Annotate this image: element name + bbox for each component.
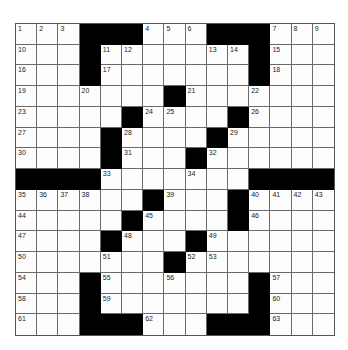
grid-cell[interactable] — [186, 45, 207, 66]
grid-cell[interactable]: 51 — [101, 252, 122, 273]
grid-cell[interactable] — [313, 231, 334, 252]
grid-cell[interactable] — [207, 211, 228, 232]
grid-cell[interactable] — [164, 148, 185, 169]
grid-cell[interactable] — [186, 128, 207, 149]
grid-cell[interactable] — [143, 128, 164, 149]
grid-cell[interactable] — [186, 294, 207, 315]
grid-cell[interactable] — [143, 294, 164, 315]
grid-cell[interactable] — [80, 231, 101, 252]
grid-cell[interactable] — [249, 252, 270, 273]
grid-cell[interactable]: 62 — [143, 314, 164, 335]
grid-cell[interactable] — [164, 211, 185, 232]
grid-cell[interactable] — [186, 190, 207, 211]
grid-cell[interactable]: 59 — [101, 294, 122, 315]
grid-cell[interactable] — [292, 252, 313, 273]
grid-cell[interactable]: 57 — [270, 273, 291, 294]
grid-cell[interactable] — [122, 294, 143, 315]
grid-cell[interactable] — [37, 65, 58, 86]
grid-cell[interactable] — [207, 294, 228, 315]
grid-cell[interactable] — [58, 65, 79, 86]
grid-cell[interactable]: 40 — [249, 190, 270, 211]
grid-cell[interactable] — [292, 273, 313, 294]
grid-cell[interactable] — [270, 128, 291, 149]
grid-cell[interactable] — [37, 294, 58, 315]
grid-cell[interactable] — [228, 169, 249, 190]
grid-cell[interactable] — [292, 231, 313, 252]
grid-cell[interactable]: 34 — [186, 169, 207, 190]
grid-cell[interactable] — [164, 169, 185, 190]
grid-cell[interactable]: 12 — [122, 45, 143, 66]
grid-cell[interactable] — [58, 273, 79, 294]
grid-cell[interactable] — [58, 211, 79, 232]
grid-cell[interactable] — [292, 148, 313, 169]
grid-cell[interactable]: 11 — [101, 45, 122, 66]
grid-cell[interactable]: 43 — [313, 190, 334, 211]
grid-cell[interactable] — [122, 273, 143, 294]
grid-cell[interactable] — [58, 252, 79, 273]
grid-cell[interactable] — [37, 107, 58, 128]
grid-cell[interactable] — [37, 231, 58, 252]
grid-cell[interactable] — [122, 86, 143, 107]
grid-cell[interactable] — [292, 107, 313, 128]
grid-cell[interactable]: 45 — [143, 211, 164, 232]
grid-cell[interactable] — [122, 169, 143, 190]
grid-cell[interactable]: 6 — [186, 24, 207, 45]
grid-cell[interactable] — [101, 190, 122, 211]
grid-cell[interactable] — [164, 231, 185, 252]
grid-cell[interactable]: 54 — [16, 273, 37, 294]
grid-cell[interactable]: 28 — [122, 128, 143, 149]
grid-cell[interactable]: 38 — [80, 190, 101, 211]
grid-cell[interactable] — [37, 252, 58, 273]
grid-cell[interactable] — [186, 107, 207, 128]
grid-cell[interactable]: 24 — [143, 107, 164, 128]
grid-cell[interactable] — [207, 86, 228, 107]
grid-cell[interactable] — [228, 148, 249, 169]
grid-cell[interactable]: 50 — [16, 252, 37, 273]
grid-cell[interactable] — [37, 273, 58, 294]
grid-cell[interactable]: 31 — [122, 148, 143, 169]
grid-cell[interactable]: 37 — [58, 190, 79, 211]
grid-cell[interactable] — [313, 273, 334, 294]
grid-cell[interactable] — [249, 128, 270, 149]
grid-cell[interactable]: 20 — [80, 86, 101, 107]
grid-cell[interactable]: 8 — [292, 24, 313, 45]
grid-cell[interactable] — [313, 107, 334, 128]
grid-cell[interactable]: 4 — [143, 24, 164, 45]
grid-cell[interactable]: 26 — [249, 107, 270, 128]
grid-cell[interactable]: 17 — [101, 65, 122, 86]
grid-cell[interactable] — [80, 107, 101, 128]
grid-cell[interactable]: 49 — [207, 231, 228, 252]
grid-cell[interactable] — [80, 211, 101, 232]
grid-cell[interactable]: 2 — [37, 24, 58, 45]
grid-cell[interactable]: 33 — [101, 169, 122, 190]
grid-cell[interactable] — [249, 231, 270, 252]
grid-cell[interactable]: 56 — [164, 273, 185, 294]
grid-cell[interactable] — [164, 294, 185, 315]
grid-cell[interactable] — [228, 252, 249, 273]
grid-cell[interactable] — [313, 45, 334, 66]
grid-cell[interactable] — [313, 252, 334, 273]
grid-cell[interactable] — [249, 148, 270, 169]
grid-cell[interactable] — [313, 148, 334, 169]
grid-cell[interactable] — [164, 45, 185, 66]
grid-cell[interactable]: 60 — [270, 294, 291, 315]
grid-cell[interactable] — [101, 86, 122, 107]
grid-cell[interactable]: 48 — [122, 231, 143, 252]
grid-cell[interactable]: 3 — [58, 24, 79, 45]
grid-cell[interactable] — [207, 169, 228, 190]
grid-cell[interactable] — [313, 128, 334, 149]
grid-cell[interactable]: 30 — [16, 148, 37, 169]
grid-cell[interactable] — [228, 86, 249, 107]
grid-cell[interactable] — [164, 65, 185, 86]
grid-cell[interactable]: 16 — [16, 65, 37, 86]
grid-cell[interactable]: 32 — [207, 148, 228, 169]
grid-cell[interactable]: 47 — [16, 231, 37, 252]
grid-cell[interactable] — [122, 65, 143, 86]
grid-cell[interactable] — [313, 314, 334, 335]
grid-cell[interactable]: 21 — [186, 86, 207, 107]
grid-cell[interactable]: 39 — [164, 190, 185, 211]
grid-cell[interactable]: 35 — [16, 190, 37, 211]
grid-cell[interactable] — [143, 169, 164, 190]
grid-cell[interactable]: 41 — [270, 190, 291, 211]
grid-cell[interactable] — [270, 231, 291, 252]
